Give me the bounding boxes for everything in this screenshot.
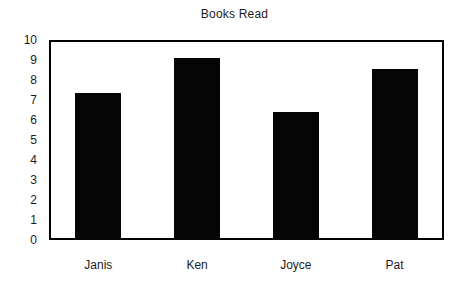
x-axis: JanisKenJoycePat <box>49 258 444 278</box>
y-tick-label: 2 <box>0 194 43 206</box>
y-axis: 109876543210 <box>0 40 43 240</box>
plot-area <box>49 40 444 240</box>
y-tick-label: 0 <box>0 234 43 246</box>
x-tick-label: Pat <box>345 258 444 272</box>
y-tick-label: 4 <box>0 154 43 166</box>
y-tick-label: 10 <box>0 34 43 46</box>
x-tick-label: Ken <box>148 258 247 272</box>
y-tick-label: 1 <box>0 214 43 226</box>
bar-chart: Books Read 109876543210 JanisKenJoycePat <box>0 0 469 297</box>
y-tick-label: 3 <box>0 174 43 186</box>
y-tick-label: 9 <box>0 54 43 66</box>
x-tick-label: Janis <box>49 258 148 272</box>
y-tick-label: 8 <box>0 74 43 86</box>
chart-title: Books Read <box>0 7 469 21</box>
x-tick-label: Joyce <box>247 258 346 272</box>
y-tick-label: 7 <box>0 94 43 106</box>
y-tick-label: 6 <box>0 114 43 126</box>
y-tick-label: 5 <box>0 134 43 146</box>
